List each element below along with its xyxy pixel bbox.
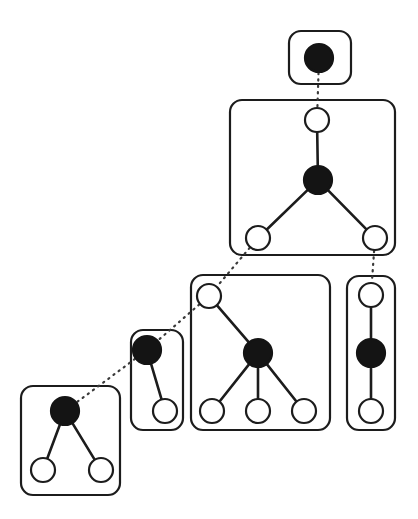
open-node-n5-bl <box>31 458 55 482</box>
filled-node-n4-top <box>133 336 161 364</box>
tree-edge-n4-top-to-n4-bot <box>150 361 162 403</box>
open-node-n3-b1 <box>200 399 224 423</box>
tree-edge-n3-mid-to-n3-b1 <box>218 362 252 404</box>
open-node-n3-b3 <box>292 399 316 423</box>
filled-node-n2-mid <box>304 166 332 194</box>
tree-edge-n2-mid-to-n2-br <box>326 188 369 232</box>
filled-node-n6-mid <box>357 339 385 367</box>
tree-edge-n2-top-to-n2-mid <box>317 129 318 169</box>
open-node-n6-top <box>359 283 383 307</box>
tree-edge-n3-mid-to-n3-b3 <box>265 362 299 404</box>
open-node-n3-b2 <box>246 399 270 423</box>
open-node-n2-top <box>305 108 329 132</box>
open-node-n4-bot <box>153 399 177 423</box>
tree-edge-n5-root-to-n5-br <box>71 420 97 462</box>
open-node-n2-bl <box>246 226 270 250</box>
filled-node-n5-root <box>51 397 79 425</box>
dotted-link-n4-top-to-n5-root <box>77 359 135 402</box>
open-node-n5-br <box>89 458 113 482</box>
filled-node-n1-root <box>305 44 333 72</box>
diagram-canvas <box>0 0 418 519</box>
tree-edge-n2-mid-to-n2-bl <box>264 188 310 232</box>
node-layer <box>31 44 387 482</box>
filled-node-n3-mid <box>244 339 272 367</box>
open-node-n6-bot <box>359 399 383 423</box>
tree-edge-n3-top-to-n3-mid <box>215 303 251 345</box>
tree-edge-n5-root-to-n5-bl <box>46 421 61 461</box>
dotted-link-n2-bl-to-n3-top <box>217 248 249 286</box>
dotted-link-n3-top-to-n4-top <box>158 305 199 341</box>
dotted-link-n1-root-to-n2-top <box>317 73 318 107</box>
open-node-n2-br <box>363 226 387 250</box>
group-box-layer <box>21 31 395 495</box>
open-node-n3-top <box>197 284 221 308</box>
node-link-diagram <box>0 0 418 519</box>
